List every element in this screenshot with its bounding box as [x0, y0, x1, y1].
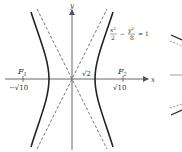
adjacent-figure-fragment: [170, 35, 182, 115]
x-axis-label: x: [151, 76, 155, 84]
focus-2-coord: √10: [113, 84, 126, 92]
vertex-label: √2: [82, 70, 91, 78]
svg-text:−: −: [120, 30, 125, 37]
equation: x² 2 − y² 8 = 1: [110, 26, 149, 41]
svg-text:y²: y²: [127, 26, 134, 34]
y-axis-label: y: [69, 2, 75, 10]
focus-1-label: F1: [17, 67, 27, 77]
focus-1-coord: −√10: [9, 84, 28, 92]
svg-text:2: 2: [111, 34, 115, 41]
hyperbola-diagram: y x F1 −√10 F2 √10 √2 x² 2 − y² 8 = 1: [0, 0, 182, 152]
svg-text:8: 8: [130, 34, 134, 41]
focus-2-label: F2: [117, 67, 127, 77]
svg-text:= 1: = 1: [138, 30, 149, 37]
svg-text:x²: x²: [110, 26, 116, 33]
